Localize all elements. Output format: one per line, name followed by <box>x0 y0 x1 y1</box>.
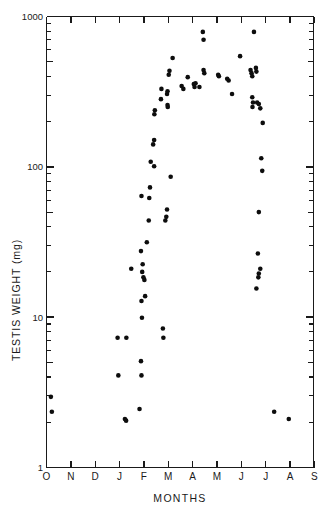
data-point <box>257 102 262 107</box>
data-point <box>201 37 206 42</box>
data-point <box>152 138 157 143</box>
data-point <box>254 69 259 74</box>
data-point <box>250 105 255 110</box>
data-point <box>140 270 145 275</box>
data-point <box>124 335 129 340</box>
data-point <box>185 75 190 80</box>
x-tick-label-may: M <box>213 471 221 482</box>
data-point <box>161 335 166 340</box>
data-point <box>159 97 164 102</box>
x-tick-label-october: O <box>43 471 51 482</box>
data-point <box>256 275 261 280</box>
data-point <box>251 100 256 105</box>
data-point <box>148 185 153 190</box>
data-point <box>50 409 55 414</box>
y-tick-label-1000: 1000 <box>22 11 43 22</box>
data-point <box>129 266 134 271</box>
data-point <box>217 74 222 79</box>
data-point <box>151 142 156 147</box>
data-point <box>256 251 261 256</box>
data-point <box>166 72 171 77</box>
data-point <box>164 215 169 220</box>
x-axis-tick-labels: ONDJFMAMJJAS <box>43 471 318 482</box>
x-tick-label-april: A <box>189 471 196 482</box>
y-tick-label-10: 10 <box>32 312 43 323</box>
data-point <box>142 278 147 283</box>
x-tick-label-march: M <box>164 471 172 482</box>
data-point <box>139 359 144 364</box>
data-point <box>139 299 144 304</box>
data-point <box>159 87 164 92</box>
x-tick-label-august: A <box>287 471 294 482</box>
data-point <box>252 30 257 35</box>
data-point <box>139 194 144 199</box>
data-point <box>250 74 255 79</box>
data-point <box>250 95 255 100</box>
x-tick-label-july: J <box>263 471 268 482</box>
data-point <box>140 262 145 267</box>
y-axis-tick-labels: 1101001000 <box>22 11 43 473</box>
data-point <box>226 78 231 83</box>
data-point <box>137 407 142 412</box>
data-points <box>49 30 292 423</box>
data-point <box>152 112 157 117</box>
data-point <box>257 210 262 215</box>
chart-canvas: 1101001000 ONDJFMAMJJAS TESTIS WEIGHT (m… <box>0 0 331 509</box>
data-point <box>139 373 144 378</box>
data-point <box>143 294 148 299</box>
data-point <box>230 92 235 97</box>
data-point <box>167 69 172 74</box>
data-point <box>165 105 170 110</box>
data-point <box>49 395 54 400</box>
data-point <box>197 85 202 90</box>
data-point <box>202 71 207 76</box>
x-tick-label-february: F <box>141 471 147 482</box>
data-point <box>258 266 263 271</box>
data-point <box>201 30 206 35</box>
x-tick-label-november: N <box>67 471 74 482</box>
data-point <box>147 196 152 201</box>
data-point <box>139 249 144 254</box>
data-point <box>115 335 120 340</box>
x-tick-label-december: D <box>92 471 99 482</box>
data-point <box>116 373 121 378</box>
data-point <box>193 81 198 86</box>
data-point <box>165 207 170 212</box>
data-point <box>153 108 158 113</box>
data-point <box>260 121 265 126</box>
x-tick-label-september: S <box>311 471 318 482</box>
data-point <box>145 240 150 245</box>
data-point <box>260 169 265 174</box>
data-point <box>238 54 243 59</box>
axes-frame <box>47 17 314 468</box>
x-tick-label-june: J <box>239 471 244 482</box>
data-point <box>170 56 175 61</box>
data-point <box>148 160 153 165</box>
data-point <box>124 418 129 423</box>
data-point <box>254 286 259 291</box>
data-point <box>146 218 151 223</box>
data-point <box>168 174 173 179</box>
x-tick-label-january: J <box>117 471 122 482</box>
data-point <box>152 164 157 169</box>
data-point <box>140 316 145 321</box>
data-point <box>181 87 186 92</box>
data-point <box>259 156 264 161</box>
data-point <box>165 89 170 94</box>
data-point <box>272 409 277 414</box>
data-point <box>258 106 263 111</box>
y-tick-label-100: 100 <box>27 161 43 172</box>
data-point <box>286 417 291 422</box>
data-point <box>161 326 166 331</box>
y-axis-label: TESTIS WEIGHT (mg) <box>10 239 22 361</box>
scatter-plot-figure: 1101001000 ONDJFMAMJJAS TESTIS WEIGHT (m… <box>0 0 331 509</box>
x-axis-label: MONTHS <box>153 492 206 504</box>
